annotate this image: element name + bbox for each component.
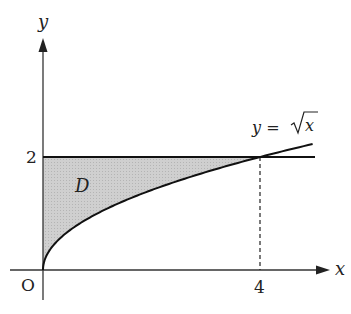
- y-axis-label: y: [37, 11, 49, 32]
- origin-label: O: [21, 275, 35, 295]
- y-axis-arrow-icon: [39, 38, 48, 52]
- region-d-shading: [43, 157, 260, 270]
- curve-equation-label: y = x: [251, 112, 318, 137]
- x-axis-arrow-icon: [316, 266, 330, 275]
- region-d-label: D: [74, 175, 90, 196]
- curve-label-radicand: x: [305, 116, 314, 135]
- x-tick-label-4: 4: [254, 277, 265, 297]
- curve-label-lhs: y =: [251, 118, 280, 137]
- y-tick-label-2: 2: [26, 147, 37, 167]
- diagram-canvas: y x O 2 4 D y = x: [0, 0, 351, 314]
- x-axis-label: x: [335, 258, 345, 279]
